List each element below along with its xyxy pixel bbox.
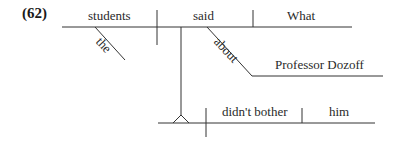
direct-object-word: What [287,8,315,24]
subject-word: students [88,8,131,24]
verb-word: said [193,8,214,24]
subordinate-object-word: him [329,104,349,120]
prep-object-word: Professor Dozoff [275,57,364,73]
stilt-pedestal [173,115,189,123]
subordinate-verb-word: didn't bother [222,104,288,120]
